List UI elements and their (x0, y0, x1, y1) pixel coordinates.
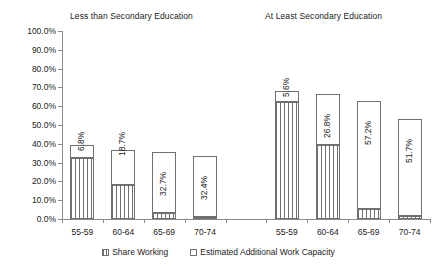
x-axis-label: 65-69 (358, 227, 380, 237)
x-axis-tick (348, 219, 349, 223)
bar-stack (70, 145, 94, 219)
x-axis-tick (266, 219, 267, 223)
bar-data-label: 26.8% (322, 114, 332, 138)
y-axis-tick (58, 31, 62, 32)
y-axis-tick (58, 163, 62, 164)
bar-segment-additional-capacity (357, 101, 381, 209)
group-title-at-least-secondary: At Least Secondary Education (265, 11, 382, 21)
bar-stack (111, 150, 135, 219)
bar-stack (398, 119, 422, 219)
y-axis-tick (58, 144, 62, 145)
y-axis-tick (58, 50, 62, 51)
x-axis-tick (430, 219, 431, 223)
y-axis-label: 10.0% (32, 195, 56, 205)
bar-segment-additional-capacity (398, 119, 422, 216)
y-axis-label: 70.0% (32, 82, 56, 92)
x-axis-tick (144, 219, 145, 223)
bar-stack (316, 94, 340, 219)
y-axis-label: 20.0% (32, 176, 56, 186)
x-axis-label: 65-69 (153, 227, 175, 237)
y-axis-label: 40.0% (32, 139, 56, 149)
y-axis-label: 50.0% (32, 120, 56, 130)
y-axis-label: 90.0% (32, 45, 56, 55)
legend-label: Share Working (112, 247, 168, 257)
y-axis-label: 0.0% (37, 214, 56, 224)
bar-stack (275, 91, 299, 219)
bar-data-label: 51.7% (404, 139, 414, 163)
bar-segment-share-working (316, 145, 340, 219)
y-axis-tick (58, 69, 62, 70)
x-axis-tick (62, 219, 63, 223)
bar-segment-share-working (111, 185, 135, 219)
x-axis-line (62, 219, 430, 220)
y-axis-label: 30.0% (32, 158, 56, 168)
y-axis-tick (58, 181, 62, 182)
legend-item[interactable]: Estimated Additional Work Capacity (190, 247, 335, 257)
x-axis-label: 55-59 (72, 227, 94, 237)
legend-item[interactable]: Share Working (102, 247, 168, 257)
x-axis-tick (185, 219, 186, 223)
bar-stack (357, 101, 381, 219)
bar-data-label: 6.8% (76, 132, 86, 151)
x-axis-tick (103, 219, 104, 223)
chart-container: Less than Secondary Education At Least S… (0, 0, 437, 266)
x-axis-label: 55-59 (276, 227, 298, 237)
bar-segment-share-working (70, 158, 94, 219)
y-axis-tick (58, 200, 62, 201)
x-axis-label: 70-74 (399, 227, 421, 237)
y-axis-label: 60.0% (32, 101, 56, 111)
legend-swatch-icon (102, 249, 109, 256)
y-axis-line (62, 31, 63, 219)
bar-data-label: 57.2% (363, 121, 373, 145)
bar-data-label: 18.7% (117, 132, 127, 156)
x-axis-tick (307, 219, 308, 223)
bar-segment-share-working (152, 213, 176, 219)
x-axis-label: 60-64 (112, 227, 134, 237)
bar-segment-share-working (275, 102, 299, 219)
x-axis-label: 70-74 (194, 227, 216, 237)
y-axis-label: 100.0% (27, 26, 56, 36)
y-axis-tick (58, 106, 62, 107)
y-axis-tick (58, 87, 62, 88)
x-axis-tick (226, 219, 227, 223)
bar-segment-share-working (398, 216, 422, 219)
bar-data-label: 32.7% (158, 171, 168, 195)
plot-area: 100.0%90.0%80.0%70.0%60.0%50.0%40.0%30.0… (62, 31, 430, 219)
bar-segment-share-working (357, 209, 381, 219)
y-axis-label: 80.0% (32, 64, 56, 74)
y-axis-tick (58, 125, 62, 126)
x-axis-tick (389, 219, 390, 223)
bar-segment-share-working (193, 217, 217, 219)
chart-legend: Share WorkingEstimated Additional Work C… (0, 247, 437, 257)
legend-swatch-icon (190, 249, 197, 256)
bar-data-label: 32.4% (199, 176, 209, 200)
x-axis-label: 60-64 (317, 227, 339, 237)
bar-data-label: 5.6% (281, 78, 291, 97)
legend-label: Estimated Additional Work Capacity (200, 247, 335, 257)
group-title-less-than-secondary: Less than Secondary Education (70, 11, 193, 21)
